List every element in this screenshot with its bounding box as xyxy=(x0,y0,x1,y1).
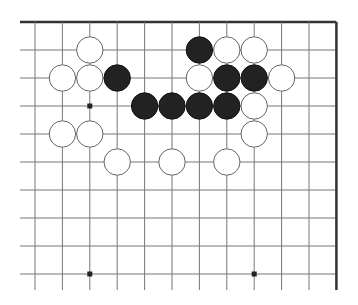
black-stone[interactable] xyxy=(186,37,212,63)
white-stone[interactable] xyxy=(159,149,185,175)
white-stone[interactable] xyxy=(49,121,75,147)
star-point-icon xyxy=(87,272,92,277)
white-stone[interactable] xyxy=(241,121,267,147)
black-stone[interactable] xyxy=(241,65,267,91)
white-stone[interactable] xyxy=(49,65,75,91)
black-stone[interactable] xyxy=(214,93,240,119)
white-stone[interactable] xyxy=(268,65,294,91)
black-stone[interactable] xyxy=(214,65,240,91)
star-point-icon xyxy=(87,104,92,109)
go-board[interactable] xyxy=(0,0,358,305)
black-stone[interactable] xyxy=(131,93,157,119)
white-stone[interactable] xyxy=(214,37,240,63)
white-stone[interactable] xyxy=(77,65,103,91)
black-stone[interactable] xyxy=(186,93,212,119)
black-stone[interactable] xyxy=(159,93,185,119)
white-stone[interactable] xyxy=(77,37,103,63)
white-stone[interactable] xyxy=(241,37,267,63)
white-stone[interactable] xyxy=(104,149,130,175)
white-stone[interactable] xyxy=(77,121,103,147)
black-stone[interactable] xyxy=(104,65,130,91)
white-stone[interactable] xyxy=(186,65,212,91)
white-stone[interactable] xyxy=(241,93,267,119)
white-stone[interactable] xyxy=(214,149,240,175)
star-point-icon xyxy=(252,272,257,277)
